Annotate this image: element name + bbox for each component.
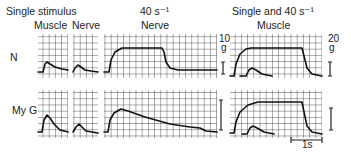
scale-bar-myg-right: [329, 108, 333, 130]
grid-myg-40-muscle: [230, 90, 322, 138]
grid-myg-40-nerve: [104, 90, 217, 138]
scale-bar-n-mid: [221, 62, 225, 74]
grid-n-40-nerve: [104, 34, 217, 78]
grid-n-40-muscle: [230, 34, 322, 78]
traces-figure: [0, 0, 351, 156]
scale-bar-myg-mid: [219, 100, 223, 130]
scale-bar-n-right: [328, 62, 332, 76]
